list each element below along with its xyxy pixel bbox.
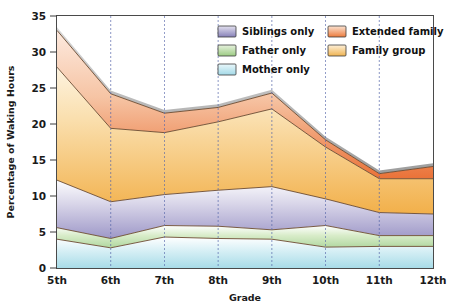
legend-label-family-group: Family group bbox=[352, 45, 426, 56]
legend-swatch-mother-only bbox=[218, 64, 236, 75]
y-tick-label-30: 30 bbox=[31, 46, 46, 58]
legend-item-extended-family[interactable]: Extended family bbox=[328, 26, 444, 37]
legend-item-family-group[interactable]: Family group bbox=[328, 45, 426, 56]
y-tick-label-0: 0 bbox=[39, 262, 46, 274]
x-tick-label-10th: 10th bbox=[312, 274, 339, 286]
x-tick-label-8th: 8th bbox=[208, 274, 228, 286]
y-tick-label-25: 25 bbox=[31, 82, 46, 94]
legend-swatch-extended-family bbox=[328, 26, 346, 37]
legend-item-mother-only[interactable]: Mother only bbox=[218, 64, 310, 75]
legend-swatch-father-only bbox=[218, 45, 236, 56]
legend-item-siblings-only[interactable]: Siblings only bbox=[218, 26, 315, 37]
y-tick-label-10: 10 bbox=[31, 190, 46, 202]
legend-label-mother-only: Mother only bbox=[242, 64, 310, 75]
legend-label-siblings-only: Siblings only bbox=[242, 26, 315, 37]
x-tick-label-9th: 9th bbox=[262, 274, 282, 286]
legend-swatch-siblings-only bbox=[218, 26, 236, 37]
y-axis-title: Percentage of Waking Hours bbox=[5, 65, 16, 218]
x-tick-label-6th: 6th bbox=[101, 274, 121, 286]
legend-label-extended-family: Extended family bbox=[352, 26, 444, 37]
x-tick-label-7th: 7th bbox=[155, 274, 175, 286]
y-tick-label-35: 35 bbox=[31, 10, 46, 22]
x-tick-label-5th: 5th bbox=[47, 274, 67, 286]
legend-label-father-only: Father only bbox=[242, 45, 307, 56]
y-tick-label-15: 15 bbox=[31, 154, 46, 166]
x-axis-title: Grade bbox=[229, 292, 261, 303]
chart-canvas: 05101520253035 5th6th7th8th9th10th11th12… bbox=[0, 0, 449, 308]
stacked-area-chart: 05101520253035 5th6th7th8th9th10th11th12… bbox=[0, 0, 449, 308]
y-tick-label-5: 5 bbox=[39, 226, 46, 238]
x-tick-label-11th: 11th bbox=[366, 274, 393, 286]
legend-swatch-family-group bbox=[328, 45, 346, 56]
y-tick-label-20: 20 bbox=[31, 118, 46, 130]
x-tick-label-12th: 12th bbox=[419, 274, 446, 286]
legend-item-father-only[interactable]: Father only bbox=[218, 45, 307, 56]
